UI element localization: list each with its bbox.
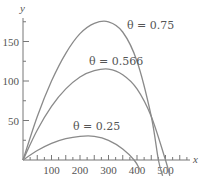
x-tick-label: 300 [100, 164, 117, 176]
label-theta-0566: θ = 0.566 [89, 55, 143, 68]
curves [23, 21, 170, 176]
trajectory-curve-0 [23, 21, 163, 176]
trajectory-chart: 100200300400500 50100150 y x θ = 0.75 θ … [0, 0, 202, 182]
x-tick-label: 200 [72, 164, 89, 176]
y-tick-label: 150 [3, 36, 20, 48]
label-theta-075: θ = 0.75 [127, 19, 174, 32]
y-tick-label: 100 [3, 75, 20, 87]
y-ticks: 50100150 [3, 22, 30, 141]
y-axis-label: y [19, 2, 25, 14]
y-tick-label: 50 [8, 115, 20, 127]
x-tick-label: 100 [43, 164, 60, 176]
label-theta-025: θ = 0.25 [73, 120, 120, 133]
x-axis-label: x [192, 153, 198, 165]
x-ticks: 100200300400500 [30, 155, 187, 176]
